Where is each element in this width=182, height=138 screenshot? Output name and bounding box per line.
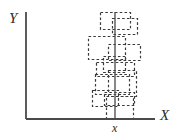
dashed-box [109,71,137,97]
dashed-box [107,97,134,120]
figure-canvas: Y X x [0,0,182,138]
x-tick-label: x [112,122,117,134]
dashed-box [113,19,138,35]
dashed-box [109,45,141,61]
dashed-box [96,75,130,95]
diagram-svg [0,0,182,138]
x-axis-label: X [160,108,169,123]
y-axis-label: Y [9,11,17,26]
